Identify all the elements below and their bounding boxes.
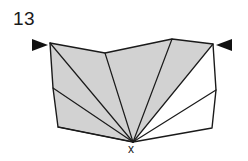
apex-point-label: x <box>128 143 134 155</box>
polygon-triangulation-diagram <box>0 0 248 161</box>
figure-number-label: 13 <box>13 9 35 28</box>
figure-root: 13 x <box>0 0 248 161</box>
triangle-left-icon <box>216 39 232 51</box>
triangle-right-icon <box>32 39 48 51</box>
